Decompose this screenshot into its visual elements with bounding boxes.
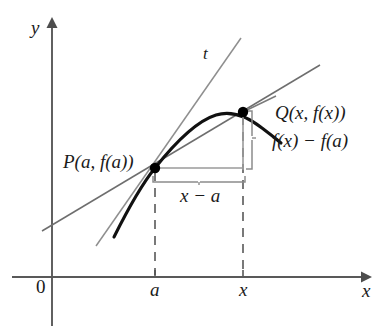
rise-bracket-label: f(x) − f(a) [272, 131, 348, 150]
tick-label-a: a [150, 280, 160, 299]
run-bracket-label: x − a [180, 186, 220, 205]
function-curve [114, 113, 281, 237]
tangent-line-label: t [203, 45, 208, 62]
x-axis-label: x [362, 281, 370, 300]
point-q-label: Q(x, f(x)) [275, 103, 346, 122]
y-axis-arrowhead [47, 17, 58, 28]
run-bracket [153, 176, 245, 182]
tangent-line [96, 38, 241, 246]
point-p-label: P(a, f(a)) [63, 152, 134, 171]
origin-label: 0 [36, 277, 46, 296]
diagram-canvas [0, 0, 386, 326]
tick-label-x: x [239, 280, 247, 299]
point-p-marker [150, 163, 160, 173]
q-label-leader-line [247, 96, 276, 110]
point-q-marker [238, 107, 248, 117]
y-axis-label: y [31, 18, 39, 37]
derivative-diagram: y t 0 x a x P(a, f(a)) Q(x, f(x)) f(x) −… [0, 0, 386, 326]
